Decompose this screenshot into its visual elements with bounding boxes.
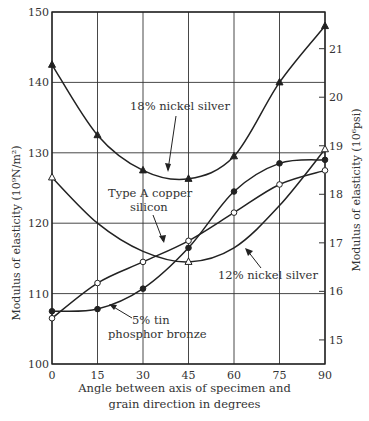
y-right-tick-label: 20 (329, 91, 343, 104)
triangle-marker-icon (322, 22, 329, 29)
x-axis-title-line1: Angle between axis of specimen and (0, 381, 369, 395)
circle-marker-icon (49, 315, 55, 321)
y-right-tick-label: 21 (329, 43, 343, 56)
label-phosphor-bronze-2: phosphor bronze (108, 327, 207, 341)
label-phosphor-bronze-1: 5% tin (132, 313, 170, 327)
circle-marker-icon (231, 210, 237, 216)
annotation-18-nickel-silver: 18% nickel silver (130, 99, 230, 172)
y-axis-right-title: Modulus of elasticity (10⁶psi) (350, 108, 363, 271)
y-left-tick-label: 110 (28, 288, 49, 301)
arrow-head-icon (245, 248, 253, 256)
triangle-marker-icon (49, 173, 56, 180)
label-12-nickel-silver: 12% nickel silver (218, 268, 318, 282)
triangle-marker-icon (49, 61, 56, 68)
label-copper-silicon-2: silicon (130, 200, 168, 214)
circle-marker-icon (95, 280, 101, 286)
circle-marker-icon (277, 182, 283, 188)
circle-marker-icon (322, 157, 328, 163)
arrow-head-icon (159, 235, 166, 243)
label-18-nickel-silver: 18% nickel silver (130, 99, 230, 113)
circle-marker-icon (140, 286, 146, 292)
y-left-tick-label: 120 (28, 217, 49, 230)
y-right-tick-label: 17 (329, 237, 343, 250)
y-left-tick-label: 150 (28, 6, 49, 19)
circle-marker-icon (49, 308, 55, 314)
circle-marker-icon (186, 238, 192, 244)
annotation-phosphor-bronze: 5% tin phosphor bronze (108, 304, 207, 341)
y-left-tick-label: 130 (28, 147, 49, 160)
modulus-chart: 0153045607590100110120130140150151617181… (0, 0, 369, 421)
circle-marker-icon (186, 245, 192, 251)
circle-marker-icon (277, 161, 283, 167)
arrow-head-icon (109, 304, 117, 310)
x-axis-title-line2: grain direction in degrees (0, 397, 369, 411)
y-left-tick-label: 140 (28, 76, 49, 89)
circle-marker-icon (95, 306, 101, 312)
y-right-tick-label: 16 (329, 285, 343, 298)
annotation-12-nickel-silver: 12% nickel silver (218, 248, 318, 282)
circle-marker-icon (231, 189, 237, 195)
y-left-tick-label: 100 (28, 358, 49, 371)
label-copper-silicon-1: Type A copper (108, 186, 193, 200)
y-right-tick-label: 18 (329, 188, 343, 201)
y-right-tick-label: 15 (329, 334, 343, 347)
annotation-copper-silicon: Type A copper silicon (108, 186, 193, 243)
circle-marker-icon (140, 259, 146, 265)
circle-marker-icon (322, 168, 328, 174)
arrow-head-icon (165, 163, 171, 172)
y-axis-left-title: Modulus of elasticity (10⁹N/m²) (10, 145, 23, 320)
arrow-line (168, 116, 176, 170)
triangle-marker-icon (322, 145, 329, 152)
y-right-tick-label: 19 (329, 140, 343, 153)
